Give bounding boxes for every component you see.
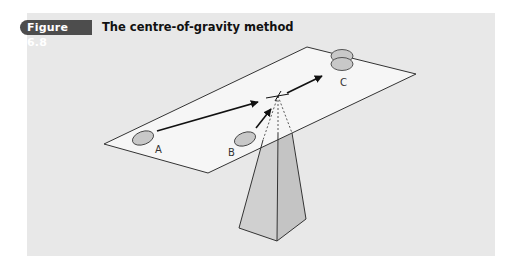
site-c-label: C [340,77,347,88]
centre-of-gravity-diagram: A B C [0,0,532,270]
site-b-label: B [228,147,235,158]
site-a-label: A [155,144,162,155]
site-c-marker-bottom [331,58,353,71]
